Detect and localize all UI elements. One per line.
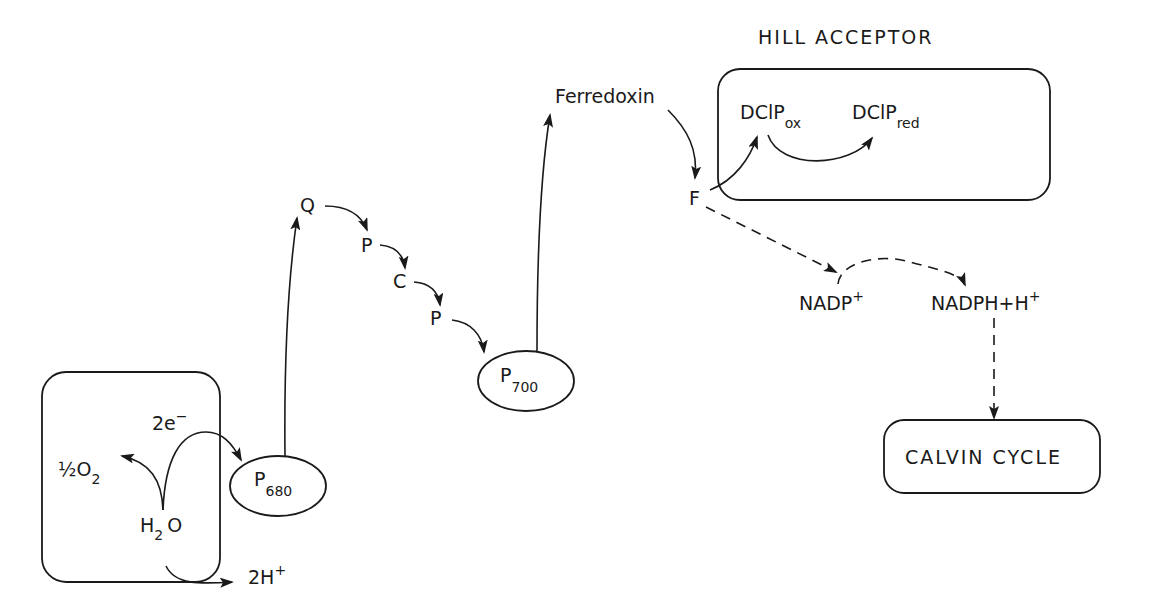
f-to-dcip-arrow [710,137,757,190]
p2-label: P [430,307,441,329]
c-label: C [393,270,406,292]
ferredoxin-to-f-arrow [668,110,696,178]
oxygen-label: ½O2 [58,458,100,487]
hill-acceptor-title: HILL ACCEPTOR [758,26,934,48]
photosynthesis-z-scheme: 2e− ½O2 H2O 2H+ P680 Q P C P P700 Ferred… [0,0,1163,609]
dcip-ox-label: DClPox [740,101,801,131]
nadph-label: NADPH+H+ [931,288,1041,314]
oxygen-arrow [122,456,163,510]
nadp-reduction-arrow [838,259,965,285]
p-to-p700-arrow [452,320,484,352]
calvin-cycle-label: CALVIN CYCLE [905,446,1062,468]
electrons-label: 2e− [152,408,188,434]
nadp-label: NADP+ [799,288,864,314]
dcip-red-label: DClPred [852,101,920,131]
hill-acceptor-box [718,69,1050,200]
ferredoxin-label: Ferredoxin [555,85,655,107]
p680-to-q-arrow [285,218,297,456]
f-label: F [689,187,700,209]
p700-to-ferredoxin-arrow [537,115,550,351]
p-to-c-arrow [380,245,405,268]
q-label: Q [300,194,315,216]
p1-label: P [361,234,372,256]
proton-release-arrow [166,566,232,583]
water-label: H2O [140,514,182,543]
p700-label: P700 [500,364,538,395]
q-to-p-arrow [325,206,367,230]
f-to-nadp-arrow [706,207,836,272]
electron-transfer-arrow [163,432,241,510]
c-to-p-arrow [414,282,440,305]
protons-label: 2H+ [248,562,286,588]
dcip-reduction-arrow [768,135,872,161]
p680-label: P680 [254,468,292,499]
